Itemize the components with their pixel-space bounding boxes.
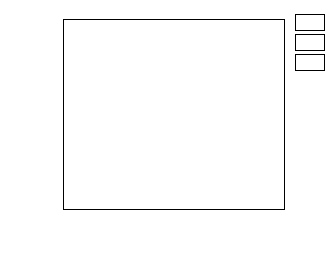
y-axis <box>0 0 63 256</box>
legend <box>295 14 330 74</box>
plot-area <box>63 19 285 210</box>
legend-swatch-both-icon <box>295 54 325 71</box>
legend-item-mon <box>295 34 330 51</box>
legend-item-thai <box>295 14 330 31</box>
legend-swatch-mon-icon <box>295 34 325 51</box>
chart-container <box>0 0 330 256</box>
legend-item-both <box>295 54 330 71</box>
legend-swatch-thai-icon <box>295 14 325 31</box>
